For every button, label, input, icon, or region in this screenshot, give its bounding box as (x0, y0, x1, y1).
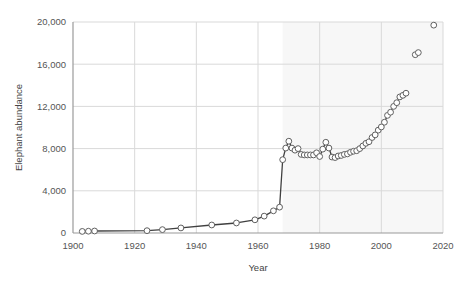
data-point (326, 145, 332, 151)
data-point (388, 109, 394, 115)
data-point (160, 227, 166, 233)
data-point (280, 157, 286, 163)
data-point (261, 213, 267, 219)
x-tick-label-6: 2020 (432, 240, 453, 251)
data-point (431, 22, 437, 28)
data-point (382, 119, 388, 125)
data-point (403, 90, 409, 96)
data-point (86, 228, 92, 234)
x-tick-label-3: 1960 (247, 240, 268, 251)
x-tick-label-0: 1900 (62, 240, 83, 251)
y-tick-label-3: 12,000 (37, 101, 66, 112)
data-point (415, 50, 421, 56)
y-tick-label-4: 16,000 (37, 59, 66, 70)
data-point (79, 229, 85, 235)
x-axis-title: Year (248, 262, 267, 273)
x-tick-label-2: 1940 (186, 240, 207, 251)
data-point (295, 146, 301, 152)
data-point (178, 225, 184, 231)
data-point (323, 139, 329, 145)
y-tick-label-0: 0 (61, 227, 66, 238)
y-tick-label-5: 20,000 (37, 16, 66, 27)
x-tick-label-5: 2000 (371, 240, 392, 251)
data-point (394, 100, 400, 106)
chart-canvas: 04,0008,00012,00016,00020,00019001920194… (0, 0, 475, 286)
data-point (283, 145, 289, 151)
data-point (234, 220, 240, 226)
data-point (252, 217, 258, 223)
data-point (144, 228, 150, 234)
elephant-abundance-chart: 04,0008,00012,00016,00020,00019001920194… (0, 0, 475, 286)
data-point (92, 228, 98, 234)
y-tick-label-1: 4,000 (42, 185, 66, 196)
data-point (271, 208, 277, 214)
y-axis-title: Elephant abundance (13, 84, 24, 171)
data-point (277, 204, 283, 210)
data-point (320, 146, 326, 152)
data-point (209, 222, 215, 228)
x-tick-label-4: 1980 (309, 240, 330, 251)
x-tick-label-1: 1920 (124, 240, 145, 251)
y-tick-label-2: 8,000 (42, 143, 66, 154)
data-point (286, 138, 292, 144)
data-point (317, 154, 323, 160)
